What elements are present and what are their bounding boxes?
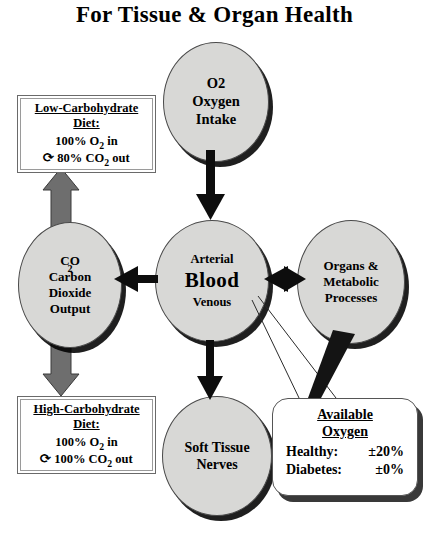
connector-oxygen-to-blood xyxy=(196,150,225,220)
row-value: ±20% xyxy=(360,443,404,461)
connector-blood-to-co2 xyxy=(114,266,158,292)
available-oxygen-title-line1: Available xyxy=(317,406,373,423)
available-oxygen-box[interactable]: Available Oxygen Healthy: ±20% Diabetes:… xyxy=(272,398,418,496)
connector-blood-to-organs xyxy=(264,266,306,292)
available-oxygen-row: Diabetes: ±0% xyxy=(282,461,408,479)
row-value: ±0% xyxy=(360,461,404,479)
available-oxygen-rows: Healthy: ±20% Diabetes: ±0% xyxy=(282,443,408,479)
connector-blood-to-soft-tissue xyxy=(197,340,223,400)
available-oxygen-title-line2: Oxygen xyxy=(322,423,368,440)
row-label: Diabetes: xyxy=(286,461,342,479)
available-oxygen-row: Healthy: ±20% xyxy=(282,443,408,461)
diagram-canvas: For Tissue & Organ Health O2 Oxygen Inta… xyxy=(0,0,429,537)
row-label: Healthy: xyxy=(286,443,338,461)
connector-organs-to-available-oxygen xyxy=(308,330,355,400)
